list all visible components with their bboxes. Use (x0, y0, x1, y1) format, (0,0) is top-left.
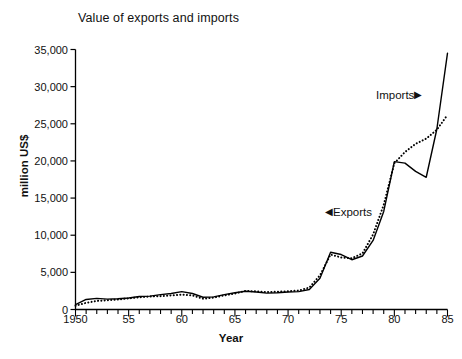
plot-area (0, 0, 462, 359)
right-triangle-icon: ▶ (414, 89, 422, 100)
series-label-imports-text: Imports (376, 89, 414, 101)
series-label-imports: Imports▶ (376, 89, 422, 101)
series-label-exports: ◀Exports (325, 206, 372, 218)
series-line-exports (76, 115, 448, 306)
left-triangle-icon: ◀ (325, 206, 333, 217)
series-label-exports-text: Exports (333, 206, 372, 218)
chart-figure: Value of exports and imports million US$… (0, 0, 462, 359)
